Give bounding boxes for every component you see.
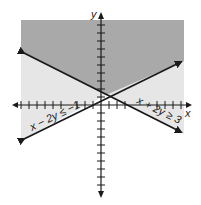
y-axis-label: y — [90, 8, 98, 20]
inequality-graph: y x x − 2y ≤ −1 x + 2y ≥ 3 — [0, 0, 201, 205]
x-axis-label: x — [184, 107, 191, 119]
